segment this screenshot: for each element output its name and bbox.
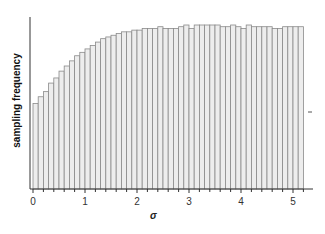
histogram-bar xyxy=(283,27,288,189)
x-tick-label: 0 xyxy=(30,196,36,207)
histogram-bar xyxy=(199,25,204,189)
x-axis-ticks: 012345 xyxy=(30,189,303,207)
histogram-bar xyxy=(225,27,230,189)
histogram-bar xyxy=(267,27,272,189)
histogram-bar xyxy=(49,83,54,189)
histogram-bar xyxy=(59,71,64,189)
histogram-bar xyxy=(101,39,106,189)
histogram-bar xyxy=(111,35,116,189)
histogram-bar xyxy=(54,78,59,189)
x-tick-label: 1 xyxy=(82,196,88,207)
histogram-bar xyxy=(288,27,293,189)
x-tick-label: 2 xyxy=(134,196,140,207)
histogram-bar xyxy=(262,27,267,189)
histogram-bar xyxy=(173,28,178,189)
histogram-bar xyxy=(147,28,152,189)
histogram-bar xyxy=(251,27,256,189)
histogram-bar xyxy=(132,30,137,189)
histogram-bar xyxy=(75,56,80,189)
histogram-bar xyxy=(210,25,215,189)
histogram-bar xyxy=(194,25,199,189)
histogram-bar xyxy=(272,28,277,189)
histogram-bar xyxy=(168,28,173,189)
histogram-bar xyxy=(33,104,38,189)
histogram-bar xyxy=(80,52,85,189)
histogram-bar xyxy=(64,66,69,189)
histogram-bar xyxy=(95,42,100,189)
histogram-bar xyxy=(85,49,90,189)
histogram-bar xyxy=(205,25,210,189)
histogram-bars xyxy=(33,25,303,189)
histogram-bar xyxy=(163,28,168,189)
y-axis-label: sampling frequency xyxy=(11,41,22,161)
x-tick-label: 3 xyxy=(186,196,192,207)
histogram-bar xyxy=(43,92,48,189)
histogram-bar xyxy=(158,27,163,189)
histogram-bar xyxy=(69,61,74,189)
x-tick-label: 5 xyxy=(290,196,296,207)
histogram-bar xyxy=(142,28,147,189)
histogram-bar xyxy=(257,27,262,189)
histogram-bar xyxy=(184,25,189,189)
histogram-bar xyxy=(215,25,220,189)
histogram-bar xyxy=(277,28,282,189)
histogram-bar xyxy=(90,46,95,190)
histogram-chart: 012345 xyxy=(0,0,325,234)
x-tick-label: 4 xyxy=(238,196,244,207)
histogram-bar xyxy=(153,28,158,189)
histogram-bar xyxy=(293,27,298,189)
histogram-bar xyxy=(241,28,246,189)
histogram-bar xyxy=(137,30,142,189)
histogram-bar xyxy=(106,37,111,189)
histogram-bar xyxy=(236,27,241,189)
histogram-bar xyxy=(246,25,251,189)
x-axis-label: σ xyxy=(150,210,157,221)
histogram-bar xyxy=(116,34,121,189)
histogram-bar xyxy=(38,97,43,189)
histogram-bar xyxy=(127,32,132,189)
histogram-bar xyxy=(231,25,236,189)
histogram-bar xyxy=(220,27,225,189)
histogram-bar xyxy=(179,27,184,189)
histogram-bar xyxy=(121,32,126,189)
histogram-bar xyxy=(189,28,194,189)
histogram-bar xyxy=(298,27,303,189)
